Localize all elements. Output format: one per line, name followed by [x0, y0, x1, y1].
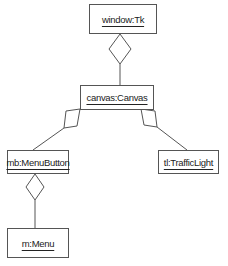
aggregation-diamond-window — [109, 34, 131, 64]
object-menubutton: mb:MenuButton — [7, 150, 69, 174]
object-label: tl:TrafficLight — [164, 157, 213, 168]
connectors-layer — [0, 0, 228, 266]
link-canvas-mb — [33, 128, 64, 150]
object-label: m:Menu — [22, 238, 55, 249]
aggregation-diamond-canvas-left — [64, 109, 80, 128]
object-menu: m:Menu — [7, 228, 69, 258]
object-label: mb:MenuButton — [6, 157, 69, 168]
link-canvas-tl — [157, 127, 187, 150]
object-window: window:Tk — [89, 4, 157, 34]
object-label: canvas:Canvas — [86, 92, 147, 103]
object-trafficlight: tl:TrafficLight — [158, 150, 219, 174]
object-canvas: canvas:Canvas — [80, 85, 154, 110]
aggregation-diamond-mb — [26, 174, 44, 200]
object-label: window:Tk — [102, 14, 144, 25]
aggregation-diamond-canvas-right — [141, 109, 157, 127]
